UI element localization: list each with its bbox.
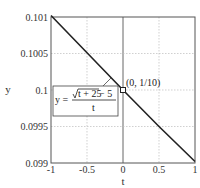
x-tick-label: -0.5 xyxy=(79,164,95,175)
formula-numerator-rest: − 5 xyxy=(99,88,112,99)
formula-radicand: t + 25 xyxy=(78,88,101,99)
x-tick-labels: -1-0.500.51 xyxy=(47,164,198,175)
y-tick-labels: 0.0990.09950.10.10050.101 xyxy=(21,12,49,169)
formula-leader-line xyxy=(103,78,111,86)
formula-lhs: y = xyxy=(55,94,69,105)
y-tick-label: 0.0995 xyxy=(21,121,49,132)
y-tick-label: 0.099 xyxy=(26,158,49,169)
chart: -1-0.500.51 0.0990.09950.10.10050.101 y … xyxy=(0,0,200,188)
hole-point-marker xyxy=(121,88,126,93)
x-tick-label: 0 xyxy=(121,164,126,175)
x-tick-label: 1 xyxy=(193,164,198,175)
y-tick-label: 0.1005 xyxy=(21,48,49,59)
y-tick-label: 0.101 xyxy=(26,12,49,23)
hole-point-label: (0, 1/10) xyxy=(126,77,160,89)
formula-denominator: t xyxy=(92,102,95,113)
x-axis-label: t xyxy=(121,175,124,187)
x-tick-label: 0.5 xyxy=(153,164,166,175)
y-axis-label: y xyxy=(5,83,11,95)
formula-annotation: y = t + 25 − 5 t xyxy=(53,86,118,116)
x-tick-label: -1 xyxy=(47,164,55,175)
y-tick-label: 0.1 xyxy=(36,85,49,96)
